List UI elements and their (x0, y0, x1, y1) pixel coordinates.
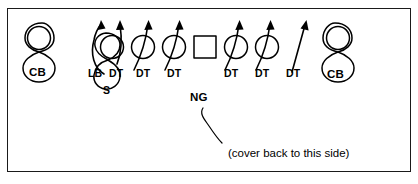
safety-figure-eight (94, 33, 120, 89)
arrow-head-group (98, 20, 309, 30)
dt-label-5: DT (255, 68, 269, 79)
ng-leader-line (202, 108, 222, 143)
center-square (194, 36, 216, 58)
safety-label: S (103, 85, 110, 96)
lb-label: LB (88, 68, 102, 79)
diagram-page: CB CB LB DT DT DT DT DT DT S NG (cover b… (0, 0, 418, 184)
nose-guard-label: NG (190, 92, 207, 104)
dt-label-4: DT (224, 68, 238, 79)
dt-rush-arrow-2 (134, 24, 148, 70)
dt-rush-arrow-3 (165, 24, 179, 70)
dt-rush-arrow-6 (292, 25, 305, 72)
cb-right-label: CB (327, 69, 344, 81)
dt-rush-arrow-1 (117, 24, 121, 64)
play-diagram-canvas (0, 0, 418, 184)
dt-label-3: DT (167, 68, 181, 79)
dt-label-6: DT (286, 68, 300, 79)
rush-arrow-group (92, 24, 305, 74)
dt-label-2: DT (136, 68, 150, 79)
cover-back-caption: (cover back to this side) (228, 148, 349, 160)
dt-rush-arrow-5 (256, 24, 270, 70)
dt-rush-arrow-4 (225, 24, 239, 70)
dt-label-1: DT (109, 68, 123, 79)
cb-left-label: CB (29, 67, 46, 79)
